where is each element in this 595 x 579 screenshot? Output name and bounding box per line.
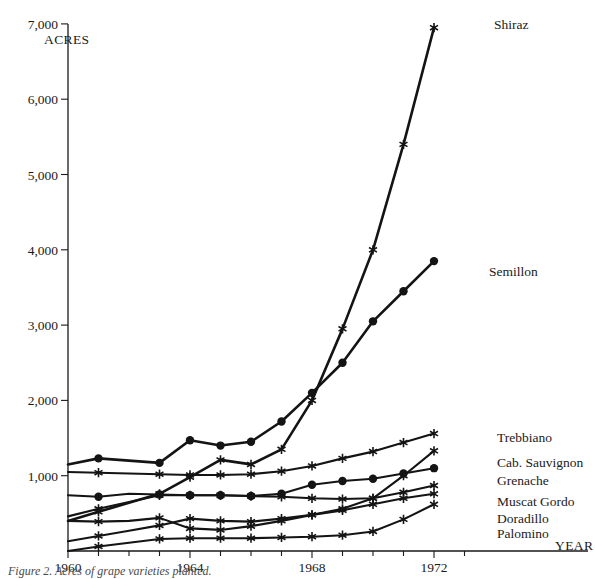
marker-shiraz	[369, 245, 377, 254]
marker-semillon	[155, 459, 163, 467]
y-tick-label: 1,000	[0, 470, 58, 484]
marker-semillon	[399, 287, 407, 295]
marker-grenache	[399, 469, 407, 477]
y-tick-label: 5,000	[0, 169, 58, 183]
marker-semillon	[94, 454, 102, 462]
marker-palomino	[430, 500, 438, 509]
series-label-cab-sauvignon: Cab. Sauvignon	[497, 456, 583, 470]
marker-shiraz	[430, 23, 438, 32]
axis-lines	[68, 24, 588, 551]
series-line-shiraz	[68, 28, 434, 521]
y-tick-label: 7,000	[0, 18, 58, 32]
marker-semillon	[277, 417, 285, 425]
marker-semillon	[430, 257, 438, 265]
marker-shiraz	[339, 324, 347, 333]
series-line-muscat-gordo	[68, 485, 434, 516]
marker-grenache	[369, 475, 377, 483]
series-label-muscat-gordo: Muscat Gordo	[497, 495, 575, 509]
series-label-shiraz: Shiraz	[494, 18, 529, 32]
marker-semillon	[186, 436, 194, 444]
marker-semillon	[308, 389, 316, 397]
marker-semillon	[369, 317, 377, 325]
x-tick-label: 1968	[282, 561, 342, 575]
series-label-palomino: Palomino	[497, 527, 549, 541]
y-axis-title: ACRES	[44, 33, 90, 47]
y-tick-label: 4,000	[0, 244, 58, 258]
marker-semillon	[338, 359, 346, 367]
marker-semillon	[247, 438, 255, 446]
marker-shiraz	[400, 140, 408, 149]
marker-grenache	[430, 464, 438, 472]
x-axis-title: YEAR	[555, 539, 593, 553]
series-label-doradillo: Doradillo	[497, 512, 549, 526]
series-label-trebbiano: Trebbiano	[497, 431, 552, 445]
marker-grenache	[94, 493, 102, 501]
marker-grenache	[338, 477, 346, 485]
x-tick-label: 1972	[404, 561, 464, 575]
figure-caption: Figure 2. Acres of grape varieties plant…	[8, 564, 212, 579]
marker-grenache	[308, 481, 316, 489]
series-label-grenache: Grenache	[497, 474, 549, 488]
marker-semillon	[216, 441, 224, 449]
y-tick-label: 2,000	[0, 394, 58, 408]
y-tick-label: 6,000	[0, 93, 58, 107]
y-tick-label: 3,000	[0, 319, 58, 333]
series-label-semillon: Semillon	[489, 265, 538, 279]
series-line-semillon	[68, 261, 434, 464]
